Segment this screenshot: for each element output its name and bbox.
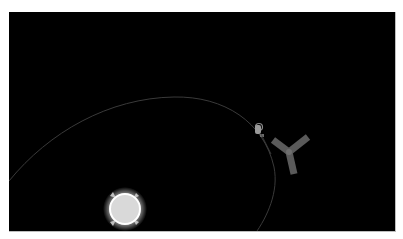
game-canvas[interactable] [9,12,396,232]
sun-icon [103,187,147,231]
astronaut-icon[interactable] [255,124,271,155]
scene-svg [9,12,395,231]
y-satellite-icon[interactable] [273,137,308,174]
page [0,0,403,239]
